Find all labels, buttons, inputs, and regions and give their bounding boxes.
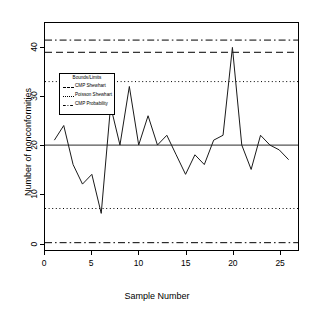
x-tick-mark-20 [233, 251, 234, 255]
x-tick-mark-25 [280, 251, 281, 255]
legend-label-cmp-probability: CMP Probability [75, 102, 108, 107]
y-tick-mark-40 [40, 47, 44, 48]
y-tick-label-0: 0 [29, 233, 39, 255]
legend-key-dotted-icon [62, 92, 75, 100]
legend-label-poisson-shewhart: Poisson Shewhart [75, 93, 112, 98]
x-tick-label-5: 5 [79, 259, 103, 268]
x-tick-mark-5 [91, 251, 92, 255]
x-tick-mark-0 [44, 251, 45, 255]
plot-area [44, 22, 299, 251]
y-tick-mark-0 [40, 244, 44, 245]
y-axis-label: Number of nonconformities [23, 62, 33, 222]
x-tick-label-0: 0 [32, 259, 56, 268]
x-axis-label: Sample Number [0, 291, 314, 301]
x-tick-label-20: 20 [221, 259, 245, 268]
x-tick-label-15: 15 [174, 259, 198, 268]
x-tick-mark-15 [186, 251, 187, 255]
legend-item-poisson-shewhart: Poisson Shewhart [62, 92, 112, 100]
y-tick-mark-10 [40, 194, 44, 195]
legend-item-cmp-shewhart: CMP Shewhart [62, 83, 112, 91]
x-tick-label-10: 10 [126, 259, 150, 268]
legend-title: Bounds/Limits [62, 76, 112, 81]
x-tick-mark-10 [138, 251, 139, 255]
legend: Bounds/Limits CMP Shewhart Poisson Shewh… [59, 73, 115, 115]
plot-canvas [45, 23, 298, 250]
control-chart: 0 10 20 30 40 0 5 10 15 20 25 Number of … [0, 0, 314, 314]
y-tick-mark-20 [40, 145, 44, 146]
y-tick-mark-30 [40, 96, 44, 97]
y-tick-label-40: 40 [29, 36, 39, 58]
legend-key-dashdot-icon [62, 101, 75, 109]
x-tick-label-25: 25 [268, 259, 292, 268]
legend-label-cmp-shewhart: CMP Shewhart [75, 84, 106, 89]
legend-item-cmp-probability: CMP Probability [62, 101, 112, 109]
legend-key-dashed-icon [62, 83, 75, 91]
